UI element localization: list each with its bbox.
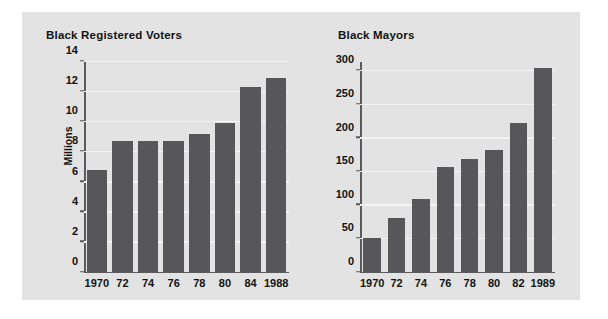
bar-group: 1988 xyxy=(263,62,289,272)
chart-black-mayors: Black Mayors 050100150200250300197072747… xyxy=(302,12,580,300)
bar xyxy=(266,78,287,271)
x-axis-tick-label: 1988 xyxy=(264,277,288,289)
x-axis-tick-label: 78 xyxy=(464,277,476,289)
bar-group: 76 xyxy=(161,62,187,272)
y-axis-tick-label: 300 xyxy=(336,53,354,65)
x-axis-tick-label: 82 xyxy=(512,277,524,289)
bar xyxy=(112,141,133,271)
bar xyxy=(163,141,184,271)
bar-group: 74 xyxy=(135,62,161,272)
bar xyxy=(485,150,503,271)
x-axis-line-left xyxy=(84,272,289,274)
bar-group: 78 xyxy=(187,62,213,272)
bar xyxy=(388,218,406,271)
bar-group: 74 xyxy=(409,62,433,272)
x-axis-tick-label: 80 xyxy=(219,277,231,289)
y-axis-tick-label: 0 xyxy=(348,255,354,267)
y-axis-tick-label: 12 xyxy=(66,74,78,86)
x-axis-tick-label: 78 xyxy=(193,277,205,289)
bar-group: 72 xyxy=(384,62,408,272)
bar-group: 76 xyxy=(433,62,457,272)
bar-series: 19707274767880821989 xyxy=(360,62,555,272)
x-axis-tick-label: 76 xyxy=(168,277,180,289)
x-axis-tick-label: 72 xyxy=(116,277,128,289)
y-axis-tick-label: 100 xyxy=(336,188,354,200)
bar xyxy=(363,238,381,271)
bar-group: 72 xyxy=(110,62,136,272)
figure-canvas: Black Registered Voters Millions 0246810… xyxy=(0,0,608,319)
plot-area-left: 0246810121419707274767880841988 xyxy=(84,62,289,273)
x-axis-tick-label: 80 xyxy=(488,277,500,289)
y-axis-tick-label: 6 xyxy=(72,165,78,177)
bar-group: 80 xyxy=(482,62,506,272)
x-axis-tick-label: 74 xyxy=(415,277,427,289)
chart-title-left: Black Registered Voters xyxy=(46,29,182,41)
y-axis-tick-label: 150 xyxy=(336,154,354,166)
x-axis-tick-label: 1970 xyxy=(360,277,384,289)
chart-black-registered-voters: Black Registered Voters Millions 0246810… xyxy=(22,12,312,300)
bar xyxy=(510,123,528,271)
y-axis-tick-label: 250 xyxy=(336,87,354,99)
y-axis-tick-label: 200 xyxy=(336,121,354,133)
bar-group: 1970 xyxy=(84,62,110,272)
bar xyxy=(189,134,210,272)
bar xyxy=(240,87,261,271)
y-axis-tick-label: 0 xyxy=(72,255,78,267)
x-axis-tick-label: 76 xyxy=(439,277,451,289)
bar-group: 78 xyxy=(458,62,482,272)
bar-group: 1989 xyxy=(531,62,555,272)
chart-panel: Black Registered Voters Millions 0246810… xyxy=(22,12,580,300)
y-axis-tick-label: 8 xyxy=(72,134,78,146)
bar-group: 1970 xyxy=(360,62,384,272)
x-axis-tick-label: 1989 xyxy=(531,277,555,289)
bar xyxy=(215,123,236,271)
x-axis-tick-label: 72 xyxy=(390,277,402,289)
bar-group: 84 xyxy=(238,62,264,272)
y-axis-tick-label: 10 xyxy=(66,104,78,116)
plot-area-right: 05010015020025030019707274767880821989 xyxy=(360,62,555,273)
bar xyxy=(138,141,159,271)
x-axis-tick-label: 74 xyxy=(142,277,154,289)
bar-series: 19707274767880841988 xyxy=(84,62,289,272)
x-axis-tick-label: 84 xyxy=(244,277,256,289)
bar xyxy=(87,170,108,272)
y-axis-tick-label: 50 xyxy=(342,221,354,233)
bar-group: 80 xyxy=(212,62,238,272)
bar xyxy=(437,167,455,272)
y-axis-tick-label: 14 xyxy=(66,44,78,56)
x-axis-tick-label: 1970 xyxy=(85,277,109,289)
bar xyxy=(412,199,430,271)
y-axis-tick-label: 4 xyxy=(72,195,78,207)
bar xyxy=(461,159,479,271)
bar xyxy=(534,68,552,271)
y-axis-tick-label: 2 xyxy=(72,225,78,237)
x-axis-line-right xyxy=(360,272,555,274)
bar-group: 82 xyxy=(506,62,530,272)
chart-title-right: Black Mayors xyxy=(338,29,415,41)
